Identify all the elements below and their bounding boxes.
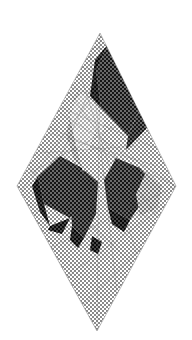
surface-plot-figure: [0, 0, 192, 340]
mesh-surface-canvas: [0, 0, 192, 340]
surface-base-plane: [17, 33, 176, 331]
